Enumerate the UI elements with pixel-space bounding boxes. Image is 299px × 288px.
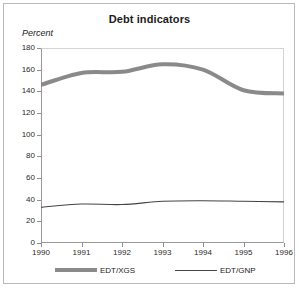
legend-item-edt-gnp[interactable]: EDT/GNP: [175, 263, 256, 277]
series-line-edt-gnp: [41, 201, 284, 208]
legend-label-edt-gnp: EDT/GNP: [220, 266, 256, 275]
x-tick-mark: [82, 243, 83, 247]
legend-label-edt-xgs: EDT/XGS: [100, 266, 135, 275]
y-tick-label: 60: [5, 174, 35, 182]
legend-swatch-icon-edt-gnp: [175, 270, 217, 271]
x-tick-mark: [244, 243, 245, 247]
x-tick-label: 1993: [143, 249, 183, 257]
y-tick-label: 180: [5, 44, 35, 52]
chart-figure: Debt indicators Percent 0204060801001201…: [0, 0, 299, 288]
x-tick-mark: [203, 243, 204, 247]
plot-series-layer: [41, 48, 284, 243]
x-tick-mark: [41, 243, 42, 247]
legend-swatch-icon-edt-xgs: [55, 268, 97, 272]
y-tick-label: 140: [5, 87, 35, 95]
x-tick-label: 1992: [102, 249, 142, 257]
y-tick-label: 20: [5, 217, 35, 225]
y-tick-label: 0: [5, 239, 35, 247]
y-tick-label: 40: [5, 196, 35, 204]
y-tick-label: 120: [5, 109, 35, 117]
y-tick-label: 160: [5, 66, 35, 74]
chart-title: Debt indicators: [0, 13, 299, 25]
x-tick-label: 1991: [62, 249, 102, 257]
x-tick-label: 1995: [224, 249, 264, 257]
x-tick-mark: [163, 243, 164, 247]
y-tick-label: 80: [5, 152, 35, 160]
x-tick-label: 1990: [21, 249, 61, 257]
chart-legend: EDT/XGS EDT/GNP: [41, 263, 284, 279]
x-tick-label: 1994: [183, 249, 223, 257]
x-tick-label: 1996: [264, 249, 299, 257]
series-line-edt-xgs: [41, 64, 284, 93]
x-tick-mark: [284, 243, 285, 247]
y-tick-label: 100: [5, 131, 35, 139]
y-axis-label: Percent: [22, 28, 53, 38]
legend-item-edt-xgs[interactable]: EDT/XGS: [55, 263, 135, 277]
x-tick-mark: [122, 243, 123, 247]
